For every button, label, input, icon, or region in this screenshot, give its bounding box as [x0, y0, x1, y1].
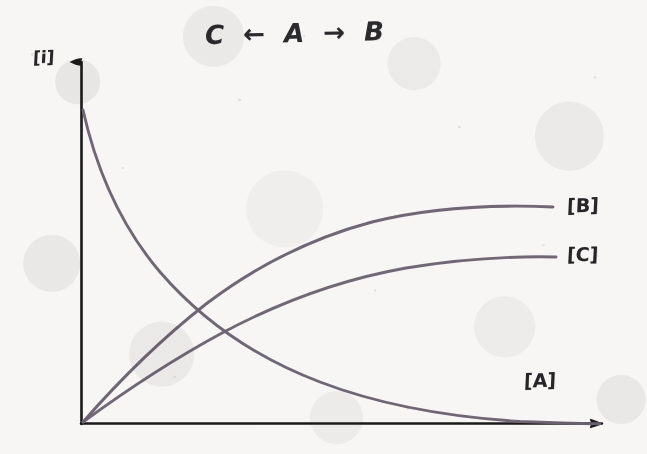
curve-a-label: [A] [524, 369, 557, 392]
curve-b-underdraw [84, 205, 552, 421]
plot-title: C ← A → B [205, 16, 389, 50]
curve-b-rise [83, 206, 553, 422]
curve-c-label: [C] [566, 243, 598, 266]
curve-a-decay [83, 110, 600, 424]
curve-b-label: [B] [567, 194, 600, 217]
sketch-figure-canvas: C ← A → B [i] [B] [C] [A] [0, 0, 647, 454]
curve-c-rise [83, 257, 556, 422]
y-axis-label: [i] [32, 47, 54, 68]
